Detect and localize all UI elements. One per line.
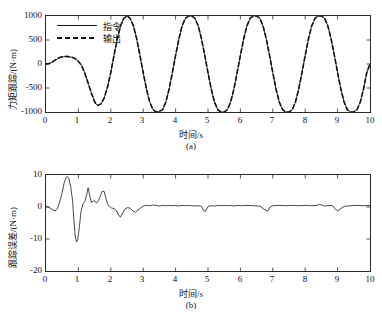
panel-b-x-tick-3: 3 [134,274,150,284]
panel-a-y-tick-1000: 1000 [12,10,42,20]
panel-a-y-tick-neg500: -500 [12,82,42,92]
panel-a-x-tick-3: 3 [134,115,150,125]
panel-a: 力矩跟踪/(N·m) 1000 500 0 -500 -1000 0 1 2 3… [0,0,382,155]
figure-container: 力矩跟踪/(N·m) 1000 500 0 -500 -1000 0 1 2 3… [0,0,382,315]
panel-b-x-tick-0: 0 [37,274,53,284]
panel-a-x-tick-7: 7 [264,115,280,125]
panel-a-y-tick-0: 0 [12,58,42,68]
panel-a-x-tick-5: 5 [199,115,215,125]
panel-b-x-tick-10: 10 [362,274,378,284]
panel-b-x-tick-9: 9 [329,274,345,284]
panel-a-x-tick-10: 10 [362,115,378,125]
panel-b: 跟踪误差/(N·m) 10 0 -10 -20 0 1 2 3 4 5 6 7 … [0,160,382,310]
panel-b-x-tick-4: 4 [167,274,183,284]
panel-a-x-tick-8: 8 [297,115,313,125]
panel-b-x-tick-6: 6 [232,274,248,284]
panel-b-plot-area [45,174,371,272]
panel-b-canvas [46,175,370,271]
panel-a-x-tick-0: 0 [37,115,53,125]
panel-b-x-tick-8: 8 [297,274,313,284]
panel-a-x-tick-9: 9 [329,115,345,125]
legend-label-output: 输出 [103,32,121,45]
panel-a-x-tick-2: 2 [102,115,118,125]
panel-b-x-tick-5: 5 [199,274,215,284]
panel-a-x-tick-1: 1 [69,115,85,125]
panel-b-x-tick-2: 2 [102,274,118,284]
panel-a-y-tick-500: 500 [12,34,42,44]
panel-b-x-axis-label: 时间/s [0,287,382,300]
panel-a-legend: 指令 输出 [57,20,147,44]
legend-swatch-output [57,36,97,40]
panel-a-x-tick-6: 6 [232,115,248,125]
panel-b-y-tick-neg10: -10 [12,233,42,243]
panel-b-y-tick-0: 0 [12,201,42,211]
bottom-caption-clipped [86,307,316,315]
panel-a-x-axis-label: 时间/s [0,128,382,141]
legend-swatch-command [57,24,97,27]
panel-a-x-tick-4: 4 [167,115,183,125]
panel-a-sublabel: (a) [0,141,382,151]
panel-b-x-tick-1: 1 [69,274,85,284]
series-line [46,177,370,242]
panel-b-x-tick-7: 7 [264,274,280,284]
panel-b-y-tick-10: 10 [12,169,42,179]
